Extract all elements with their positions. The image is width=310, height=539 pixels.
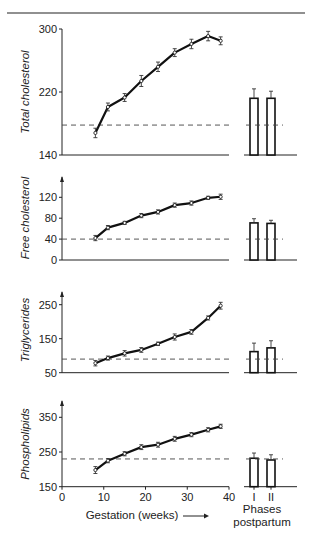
- x-tick-label: 10: [98, 491, 110, 503]
- series-line: [95, 36, 220, 133]
- panels: 140220300Total cholesterol04080120Free c…: [19, 23, 297, 503]
- data-point: [219, 304, 222, 307]
- data-point: [156, 443, 159, 446]
- data-point: [106, 226, 109, 229]
- y-tick-label: 150: [39, 481, 57, 493]
- data-point: [140, 214, 143, 217]
- postpartum-bar: [250, 352, 258, 373]
- y-tick-label: 300: [39, 23, 57, 35]
- data-point: [190, 42, 193, 45]
- bar-tick-label: I: [252, 491, 255, 503]
- panel-free-cholesterol: 04080120Free cholesterol: [19, 176, 297, 266]
- data-point: [219, 195, 222, 198]
- series-line: [95, 426, 220, 470]
- y-tick-label: 250: [39, 299, 57, 311]
- data-point: [207, 34, 210, 37]
- postpartum-label-line2: postpartum: [233, 516, 291, 528]
- data-point: [173, 204, 176, 207]
- bar-tick-label: II: [268, 491, 274, 503]
- y-axis-arrow-icon: [60, 400, 64, 406]
- data-point: [190, 330, 193, 333]
- data-point: [140, 79, 143, 82]
- postpartum-bar: [267, 98, 275, 155]
- y-tick-label: 40: [45, 233, 57, 245]
- x-axis-labels: Gestation (weeks) Phases postpartum: [86, 503, 291, 528]
- data-point: [173, 437, 176, 440]
- arrow-right-icon: [204, 514, 209, 519]
- data-point: [140, 446, 143, 449]
- data-point: [94, 131, 97, 134]
- y-axis-title: Total cholesterol: [19, 50, 31, 134]
- y-axis-title: Free cholesterol: [19, 176, 31, 259]
- data-point: [123, 96, 126, 99]
- x-tick-label: 40: [223, 491, 235, 503]
- data-point: [219, 425, 222, 428]
- data-point: [173, 51, 176, 54]
- data-point: [123, 221, 126, 224]
- y-tick-label: 120: [39, 191, 57, 203]
- data-point: [94, 236, 97, 239]
- y-axis-arrow-icon: [60, 291, 64, 297]
- y-axis-title: Triglycerides: [19, 298, 31, 363]
- data-point: [106, 459, 109, 462]
- series-line: [95, 306, 220, 363]
- data-point: [207, 316, 210, 319]
- data-point: [94, 362, 97, 365]
- postpartum-bar: [250, 223, 258, 260]
- data-point: [123, 352, 126, 355]
- y-tick-label: 250: [39, 446, 57, 458]
- x-tick-label: 20: [139, 491, 151, 503]
- data-point: [219, 39, 222, 42]
- y-tick-label: 220: [39, 86, 57, 98]
- y-tick-label: 50: [45, 367, 57, 379]
- postpartum-bar: [267, 348, 275, 373]
- data-point: [173, 335, 176, 338]
- y-tick-label: 80: [45, 212, 57, 224]
- y-tick-label: 150: [39, 333, 57, 345]
- data-point: [207, 196, 210, 199]
- y-tick-label: 140: [39, 149, 57, 161]
- y-axis-arrow-icon: [60, 176, 64, 182]
- y-axis-title: Phospholipids: [19, 408, 31, 480]
- x-tick-label: 0: [59, 491, 65, 503]
- postpartum-bar: [250, 458, 258, 486]
- x-tick-label: 30: [181, 491, 193, 503]
- data-point: [190, 201, 193, 204]
- data-point: [94, 468, 97, 471]
- data-point: [140, 348, 143, 351]
- data-point: [156, 210, 159, 213]
- data-point: [207, 428, 210, 431]
- data-point: [106, 105, 109, 108]
- postpartum-bar: [267, 460, 275, 487]
- series-line: [95, 197, 220, 238]
- x-axis-title: Gestation (weeks): [86, 509, 179, 521]
- data-point: [106, 356, 109, 359]
- y-tick-label: 350: [39, 411, 57, 423]
- data-point: [156, 65, 159, 68]
- figure: 140220300Total cholesterol04080120Free c…: [0, 0, 310, 539]
- panel-phospholipids: 150250350Phospholipids010203040III: [19, 400, 297, 503]
- panel-total-cholesterol: 140220300Total cholesterol: [19, 23, 297, 161]
- data-point: [123, 452, 126, 455]
- y-tick-label: 0: [51, 254, 57, 266]
- postpartum-label-line1: Phases: [243, 503, 282, 515]
- data-point: [156, 342, 159, 345]
- data-point: [190, 433, 193, 436]
- postpartum-bar: [267, 223, 275, 260]
- postpartum-bar: [250, 98, 258, 155]
- panel-triglycerides: 50150250Triglycerides: [19, 291, 297, 379]
